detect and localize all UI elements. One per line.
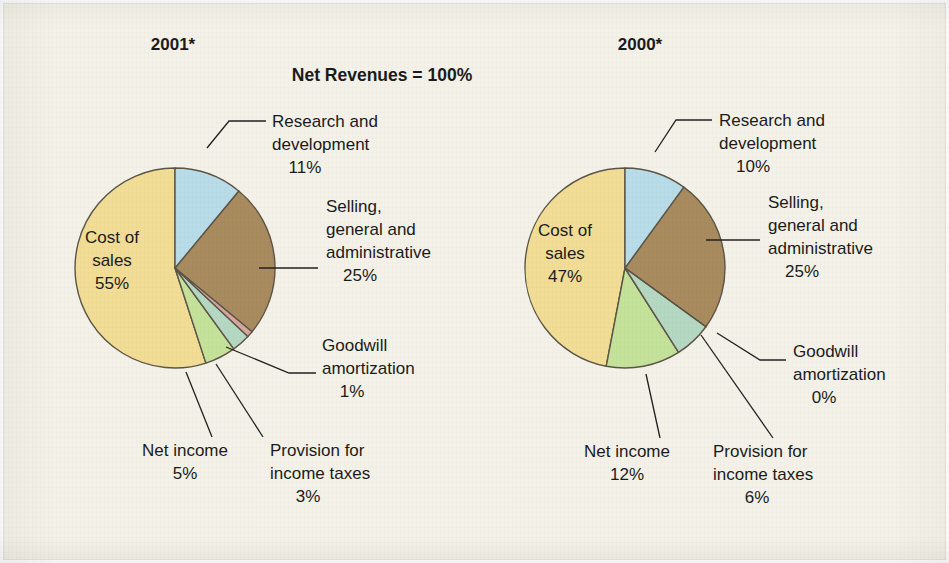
label-rd-line1-2000: Research and	[719, 111, 825, 130]
label-provision-value-2000: 6%	[745, 488, 770, 507]
label-sga-value-2001: 25%	[343, 266, 377, 285]
label-provision-line2-2001: income taxes	[270, 464, 370, 483]
leader-line-net-income-2001	[186, 372, 212, 437]
label-provision-value-2001: 3%	[296, 487, 321, 506]
label-rd-line1-2001: Research and	[272, 112, 378, 131]
label-cost-of-sales-line1-2001: Cost of	[85, 228, 139, 247]
leader-line-goodwill-amortization-2000	[717, 333, 786, 360]
pie-chart-figure: 2001* 2000* Net Revenues = 100% Cost of …	[0, 0, 949, 563]
label-net-income-value-2000: 12%	[610, 465, 644, 484]
label-sga-line2-2001: general and	[326, 220, 416, 239]
leader-line-provision-for-income-taxes-2000	[701, 335, 773, 438]
label-goodwill-value-2001: 1%	[340, 382, 365, 401]
label-goodwill-line2-2000: amortization	[793, 365, 886, 384]
label-sga-line3-2001: administrative	[326, 243, 431, 262]
panel-title-2001: 2001*	[151, 35, 196, 54]
label-sga-value-2000: 25%	[785, 262, 819, 281]
label-goodwill-line1-2000: Goodwill	[793, 342, 858, 361]
label-sga-line2-2000: general and	[768, 216, 858, 235]
label-cost-of-sales-line2-2000: sales	[545, 244, 585, 263]
label-rd-value-2001: 11%	[289, 158, 322, 177]
panel-title-2000: 2000*	[618, 35, 663, 54]
label-sga-line1-2001: Selling,	[326, 197, 382, 216]
label-provision-line1-2001: Provision for	[270, 441, 365, 460]
chart-canvas: 2001* 2000* Net Revenues = 100% Cost of …	[0, 0, 949, 563]
label-sga-line1-2000: Selling,	[768, 193, 824, 212]
label-cost-of-sales-value-2001: 55%	[95, 274, 129, 293]
label-sga-line3-2000: administrative	[768, 239, 873, 258]
label-provision-line1-2000: Provision for	[713, 442, 808, 461]
label-goodwill-value-2000: 0%	[812, 388, 837, 407]
label-rd-value-2000: 10%	[736, 157, 770, 176]
label-cost-of-sales-value-2000: 47%	[548, 267, 582, 286]
label-goodwill-line1-2001: Goodwill	[322, 336, 387, 355]
leader-line-net-income-2000	[646, 374, 660, 438]
label-net-income-line1-2000: Net income	[584, 442, 670, 461]
leader-line-provision-for-income-taxes-2001	[216, 364, 263, 437]
label-provision-line2-2000: income taxes	[713, 465, 813, 484]
figure-title: Net Revenues = 100%	[292, 65, 473, 85]
label-rd-line2-2001: development	[272, 135, 370, 154]
leader-line-research-and-development-2000	[655, 120, 712, 152]
leader-line-research-and-development-2001	[207, 121, 266, 148]
leader-line-goodwill-amortization-2001	[226, 347, 316, 373]
label-net-income-value-2001: 5%	[173, 464, 198, 483]
label-net-income-line1-2001: Net income	[142, 441, 228, 460]
label-cost-of-sales-line2-2001: sales	[92, 251, 132, 270]
label-rd-line2-2000: development	[719, 134, 817, 153]
label-goodwill-line2-2001: amortization	[322, 359, 415, 378]
label-cost-of-sales-line1-2000: Cost of	[538, 221, 592, 240]
